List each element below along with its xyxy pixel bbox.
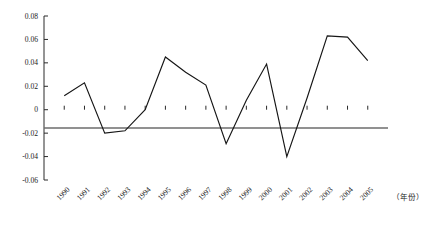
x-tick-label: 2001 bbox=[277, 185, 294, 202]
y-tick-label: 0.06 bbox=[25, 35, 38, 44]
y-tick-label: 0.02 bbox=[25, 82, 38, 91]
y-axis-tick-labels: 0.080.060.040.020-0.02-0.04-0.06 bbox=[22, 12, 38, 185]
y-tick-label: 0.04 bbox=[25, 58, 38, 67]
x-tick-label: 2005 bbox=[358, 185, 375, 202]
y-tick-label: 0 bbox=[34, 105, 38, 114]
x-tick-label: 1992 bbox=[95, 185, 112, 202]
x-tick-label: 1990 bbox=[55, 185, 72, 202]
x-tick-label: 2004 bbox=[338, 185, 355, 202]
series-line-path bbox=[64, 36, 368, 157]
x-tick-label: 1998 bbox=[216, 185, 233, 202]
x-tick-label: 1996 bbox=[176, 185, 193, 202]
x-tick-label: 1993 bbox=[115, 185, 132, 202]
x-tick-label: 1991 bbox=[75, 185, 92, 202]
y-tick-label: -0.04 bbox=[22, 152, 38, 161]
x-tick-label: 2003 bbox=[318, 185, 335, 202]
y-tick-label: -0.06 bbox=[22, 176, 38, 185]
y-axis: 0.080.060.040.020-0.02-0.04-0.06 bbox=[22, 12, 48, 185]
x-axis: 1990199119921993199419951996199719981999… bbox=[44, 106, 424, 202]
x-tick-label: 2002 bbox=[297, 185, 314, 202]
x-tick-label: 1994 bbox=[135, 185, 152, 202]
x-tick-label: 1999 bbox=[237, 185, 254, 202]
line-chart: 0.080.060.040.020-0.02-0.04-0.06 1990199… bbox=[0, 0, 440, 232]
y-tick-label: 0.08 bbox=[25, 12, 38, 21]
chart-canvas: 0.080.060.040.020-0.02-0.04-0.06 1990199… bbox=[0, 0, 440, 232]
x-axis-tick-labels: 1990199119921993199419951996199719981999… bbox=[55, 185, 376, 202]
x-axis-ticks bbox=[64, 106, 368, 110]
y-axis-ticks bbox=[44, 16, 48, 180]
x-tick-label: 1997 bbox=[196, 185, 213, 202]
data-series bbox=[64, 36, 368, 157]
x-tick-label: 2000 bbox=[257, 185, 274, 202]
x-tick-label: 1995 bbox=[156, 185, 173, 202]
x-axis-label: （年份） bbox=[392, 192, 424, 202]
y-tick-label: -0.02 bbox=[22, 129, 38, 138]
